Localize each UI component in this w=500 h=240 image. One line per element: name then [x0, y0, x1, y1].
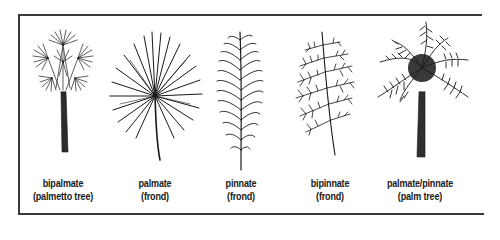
plant-note: (frond)	[106, 190, 204, 203]
palmate-pinnate-palm-tree-illustration	[378, 22, 468, 157]
plant-name: bipinnate	[281, 177, 379, 190]
plant-note: (frond)	[281, 190, 379, 203]
label-bipinnate: bipinnate (frond)	[281, 177, 379, 203]
label-bipalmate: bipalmate (palmetto tree)	[14, 177, 112, 203]
plant-name: palmate	[106, 177, 204, 190]
plant-note: (palm tree)	[371, 190, 469, 203]
label-palmate-pinnate: palmate/pinnate (palm tree)	[371, 177, 469, 203]
pinnate-frond-illustration	[217, 32, 263, 170]
bipalmate-palmetto-tree-illustration	[33, 30, 93, 152]
plant-name: bipalmate	[14, 177, 112, 190]
plant-note: (palmetto tree)	[14, 190, 112, 203]
bipinnate-frond-illustration	[296, 32, 354, 155]
plant-note: (frond)	[192, 190, 290, 203]
label-palmate: palmate (frond)	[106, 177, 204, 203]
label-pinnate: pinnate (frond)	[192, 177, 290, 203]
palmate-frond-illustration	[110, 32, 202, 160]
plant-name: palmate/pinnate	[371, 177, 469, 190]
plant-name: pinnate	[192, 177, 290, 190]
